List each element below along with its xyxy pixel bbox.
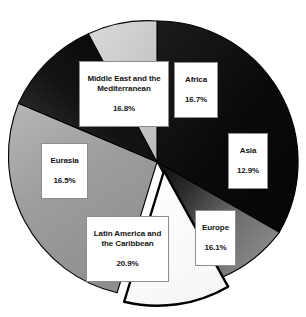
pie-label-africa-name: Africa [178,75,214,85]
pie-label-africa-percent: 16.7% [178,95,214,105]
pie-label-asia: Asia 12.9% [228,133,268,189]
pie-label-latin-america-name: Latin America and the Caribbean [90,229,165,249]
pie-label-asia-percent: 12.9% [232,166,264,176]
pie-label-middle-east-name: Middle East and the Mediterranean [83,74,165,94]
pie-label-eurasia: Eurasia 16.5% [41,143,88,199]
pie-chart: Africa 16.7% Asia 12.9% Europe 16.1% Lat… [0,0,306,317]
pie-label-europe-name: Europe [199,223,232,233]
pie-label-asia-name: Asia [232,146,264,156]
pie-label-africa: Africa 16.7% [174,62,218,118]
pie-label-middle-east-percent: 16.8% [83,104,165,114]
pie-label-eurasia-name: Eurasia [45,156,84,166]
pie-label-eurasia-percent: 16.5% [45,176,84,186]
pie-label-middle-east: Middle East and the Mediterranean 16.8% [79,61,169,127]
pie-label-latin-america-percent: 20.9% [90,259,165,269]
pie-label-europe-percent: 16.1% [199,243,232,253]
pie-label-europe: Europe 16.1% [195,210,236,266]
pie-label-latin-america: Latin America and the Caribbean 20.9% [86,216,169,282]
